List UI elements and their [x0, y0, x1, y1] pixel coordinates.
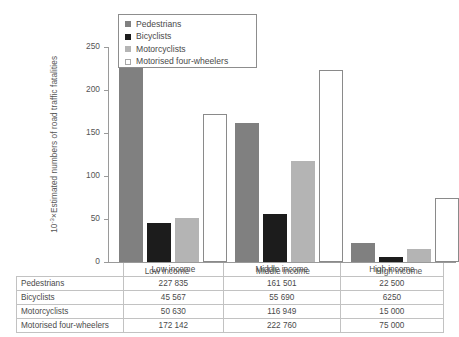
table-corner-cell [17, 263, 124, 277]
y-axis-tick-label: 100 [78, 171, 100, 179]
table-cell: 45 567 [124, 291, 224, 305]
y-axis-title-exponent: -3 [49, 218, 55, 224]
table-cell: 222 760 [223, 319, 340, 333]
bar [351, 243, 375, 262]
y-axis-title: 10-3×Estimated numbers of road traffic f… [49, 29, 60, 259]
table-cell: 22 500 [340, 277, 443, 291]
table-body: Pedestrians227 835161 50122 500Bicyclist… [17, 277, 444, 333]
table-row: Motorised four-wheelers172 142222 76075 … [17, 319, 444, 333]
table-cell: 15 000 [340, 305, 443, 319]
legend-item[interactable]: Motorised four-wheelers [125, 56, 256, 68]
table-row-header: Motorised four-wheelers [17, 319, 124, 333]
bar [379, 257, 403, 262]
table-cell: 116 949 [223, 305, 340, 319]
bar [119, 66, 143, 262]
plot-bars [109, 47, 456, 262]
legend-item[interactable]: Bicyclists [125, 31, 256, 43]
table-row: Pedestrians227 835161 50122 500 [17, 277, 444, 291]
y-axis-title-rest: ×Estimated numbers of road traffic fatal… [50, 56, 59, 218]
bar [319, 70, 343, 262]
legend-item-label: Bicyclists [136, 32, 171, 41]
y-axis-tick-label: 250 [78, 42, 100, 50]
figure-root: 10-3×Estimated numbers of road traffic f… [0, 0, 459, 337]
table-cell: 172 142 [124, 319, 224, 333]
table-cell: 75 000 [340, 319, 443, 333]
bar-group [109, 47, 225, 262]
y-axis-tick-label: 50 [78, 214, 100, 222]
table-header-row: Low incomeMiddle incomeHigh income [17, 263, 444, 277]
bar [235, 123, 259, 262]
legend-item[interactable]: Motorcyclists [125, 43, 256, 55]
bar-chart: 10-3×Estimated numbers of road traffic f… [0, 0, 459, 262]
bar-group [225, 47, 341, 262]
table-column-header: Middle income [223, 263, 340, 277]
legend-item[interactable]: Pedestrians [125, 18, 256, 30]
table-cell: 55 690 [223, 291, 340, 305]
data-table: Low incomeMiddle incomeHigh income Pedes… [16, 263, 444, 333]
legend-item-label: Motorised four-wheelers [136, 57, 228, 66]
table-cell: 161 501 [223, 277, 340, 291]
bar [291, 161, 315, 262]
bar [203, 114, 227, 262]
bar [435, 198, 459, 263]
bar [263, 214, 287, 262]
table-row-header: Pedestrians [17, 277, 124, 291]
legend-swatch-icon [125, 34, 131, 40]
table-column-header: High income [340, 263, 443, 277]
table-head: Low incomeMiddle incomeHigh income [17, 263, 444, 277]
table-row: Bicyclists45 56755 6906250 [17, 291, 444, 305]
table-row-header: Motorcyclists [17, 305, 124, 319]
legend-item-label: Motorcyclists [136, 45, 186, 54]
table-cell: 6250 [340, 291, 443, 305]
y-axis-tick-labels: 050100150200250 [78, 0, 100, 262]
legend-swatch-icon [125, 46, 131, 52]
bar [147, 223, 171, 262]
table-row-header: Bicyclists [17, 291, 124, 305]
bar [407, 249, 431, 262]
table-column-header: Low income [124, 263, 224, 277]
bar-group [341, 47, 457, 262]
table-cell: 50 630 [124, 305, 224, 319]
legend-swatch-icon [125, 21, 131, 27]
y-axis-title-prefix: 10 [50, 224, 59, 233]
table-cell: 227 835 [124, 277, 224, 291]
table-row: Motorcyclists50 630116 94915 000 [17, 305, 444, 319]
y-axis-tick-label: 150 [78, 128, 100, 136]
legend-swatch-icon [125, 59, 131, 65]
y-axis-tick-label: 200 [78, 85, 100, 93]
chart-legend: PedestriansBicyclistsMotorcyclistsMotori… [118, 14, 257, 68]
legend-item-label: Pedestrians [136, 20, 181, 29]
bar [175, 218, 199, 262]
